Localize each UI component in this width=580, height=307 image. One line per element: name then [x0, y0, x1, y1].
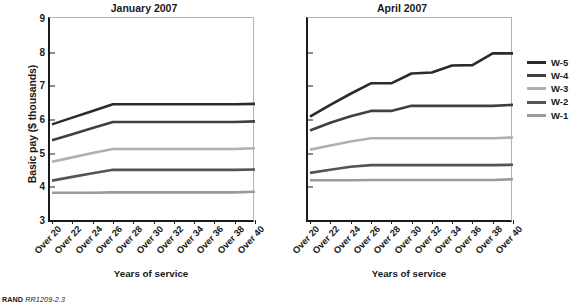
- legend-item-w-4: W-4: [527, 69, 579, 82]
- y-tick-label: 4: [39, 182, 45, 192]
- legend-item-w-5: W-5: [527, 56, 579, 69]
- x-tick-mark: [255, 220, 256, 224]
- y-tick-mark: [308, 86, 313, 87]
- legend-swatch: [527, 74, 546, 77]
- y-tick-mark: [50, 187, 55, 188]
- x-tick-mark: [310, 220, 311, 224]
- series-line-w-4: [52, 121, 255, 140]
- x-tick-mark: [452, 220, 453, 224]
- x-tick-mark: [391, 220, 392, 224]
- series-canvas: [308, 18, 514, 223]
- x-tick-mark: [351, 220, 352, 224]
- y-tick-label: 3: [39, 216, 45, 226]
- x-tick-mark: [174, 220, 175, 224]
- x-tick-mark: [330, 220, 331, 224]
- x-tick-mark: [371, 220, 372, 224]
- x-tick-mark: [52, 220, 53, 224]
- y-tick-mark: [50, 52, 55, 53]
- y-tick-label: 6: [39, 115, 45, 125]
- legend-label: W-1: [551, 111, 568, 121]
- x-tick-mark: [412, 220, 413, 224]
- plot-area-april: Over 20Over 22Over 24Over 26Over 28Over …: [306, 17, 512, 222]
- y-tick-mark: [50, 86, 55, 87]
- legend-label: W-3: [551, 84, 568, 94]
- x-tick-mark: [93, 220, 94, 224]
- legend-item-w-3: W-3: [527, 82, 579, 95]
- legend-swatch: [527, 87, 546, 90]
- legend-label: W-2: [551, 97, 568, 107]
- legend-label: W-5: [551, 58, 568, 68]
- series-line-w-1: [52, 192, 255, 193]
- x-tick-mark: [133, 220, 134, 224]
- series-line-w-3: [310, 138, 513, 150]
- x-tick-mark: [235, 220, 236, 224]
- y-tick-mark: [50, 153, 55, 154]
- legend-item-w-2: W-2: [527, 96, 579, 109]
- panel-title: January 2007: [24, 2, 264, 14]
- series-line-w-3: [52, 148, 255, 161]
- legend-swatch: [527, 114, 546, 117]
- series-line-w-1: [310, 179, 513, 180]
- footnote: RAND RR1209-2.3: [2, 295, 65, 304]
- series-line-w-2: [310, 165, 513, 173]
- x-tick-mark: [113, 220, 114, 224]
- y-tick-mark: [308, 153, 313, 154]
- series-canvas: [50, 18, 256, 223]
- x-axis-title-january: Years of service: [48, 268, 254, 279]
- footnote-id: RR1209-2.3: [25, 295, 65, 304]
- y-tick-label: 7: [39, 81, 45, 91]
- panel-title: April 2007: [282, 2, 522, 14]
- x-tick-mark: [513, 220, 514, 224]
- y-tick-mark: [308, 187, 313, 188]
- figure-basic-pay-by-years-of-service: Basic pay ($ thousands) January 2007 345…: [0, 0, 580, 307]
- x-tick-mark: [194, 220, 195, 224]
- y-tick-label: 9: [39, 14, 45, 24]
- x-tick-mark: [214, 220, 215, 224]
- panel-april-2007: April 2007 Over 20Over 22Over 24Over 26O…: [282, 0, 522, 290]
- legend-swatch: [527, 101, 546, 104]
- series-line-w-2: [52, 169, 255, 180]
- x-tick-mark: [472, 220, 473, 224]
- panel-january-2007: January 2007 3456789Over 20Over 22Over 2…: [24, 0, 264, 290]
- y-tick-mark: [308, 120, 313, 121]
- x-tick-mark: [493, 220, 494, 224]
- y-tick-mark: [308, 52, 313, 53]
- y-tick-mark: [50, 120, 55, 121]
- y-tick-label: 5: [39, 149, 45, 159]
- x-tick-mark: [154, 220, 155, 224]
- x-tick-mark: [72, 220, 73, 224]
- legend-label: W-4: [551, 71, 568, 81]
- footnote-brand: RAND: [2, 295, 23, 304]
- x-tick-mark: [432, 220, 433, 224]
- y-tick-label: 8: [39, 48, 45, 58]
- x-axis-title-april: Years of service: [306, 268, 512, 279]
- legend-swatch: [527, 61, 546, 64]
- legend-item-w-1: W-1: [527, 109, 579, 122]
- plot-area-january: 3456789Over 20Over 22Over 24Over 26Over …: [48, 17, 254, 222]
- legend: W-5W-4W-3W-2W-1: [527, 56, 579, 122]
- series-line-w-4: [310, 105, 513, 131]
